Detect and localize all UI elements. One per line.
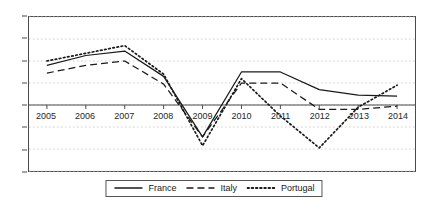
y-tick-mark <box>22 127 27 128</box>
x-tick-label: 2013 <box>349 111 369 121</box>
legend-item-france: France <box>113 183 176 193</box>
x-tick-label: 2008 <box>153 111 173 121</box>
x-tick-label: 2014 <box>388 111 408 121</box>
x-tick-label: 2010 <box>232 111 252 121</box>
legend-label: Portugal <box>281 183 315 193</box>
chart-legend: FranceItalyPortugal <box>105 180 322 197</box>
y-tick-mark <box>22 38 27 39</box>
x-tick-label: 2005 <box>36 111 56 121</box>
y-tick-mark <box>22 16 27 17</box>
x-tick-label: 2007 <box>114 111 134 121</box>
y-tick-mark <box>22 82 27 83</box>
legend-item-italy: Italy <box>185 183 237 193</box>
x-tick-label: 2011 <box>271 111 290 121</box>
y-tick-mark <box>22 149 27 150</box>
legend-label: France <box>148 183 176 193</box>
line-chart: 86420-2-4-6 2005200620072008200920102011… <box>0 0 428 211</box>
y-tick-mark <box>22 105 27 106</box>
x-tick-label: 2012 <box>310 111 330 121</box>
legend-item-portugal: Portugal <box>246 183 315 193</box>
x-axis: 2005200620072008200920102011201220132014 <box>28 16 416 172</box>
legend-swatch-dashed <box>185 184 215 192</box>
legend-swatch-dotted <box>246 184 276 192</box>
legend-swatch-solid <box>113 184 143 192</box>
legend-label: Italy <box>220 183 237 193</box>
x-tick-label: 2006 <box>75 111 95 121</box>
x-tick-label: 2009 <box>192 111 212 121</box>
y-tick-mark <box>22 60 27 61</box>
y-tick-mark <box>22 172 27 173</box>
